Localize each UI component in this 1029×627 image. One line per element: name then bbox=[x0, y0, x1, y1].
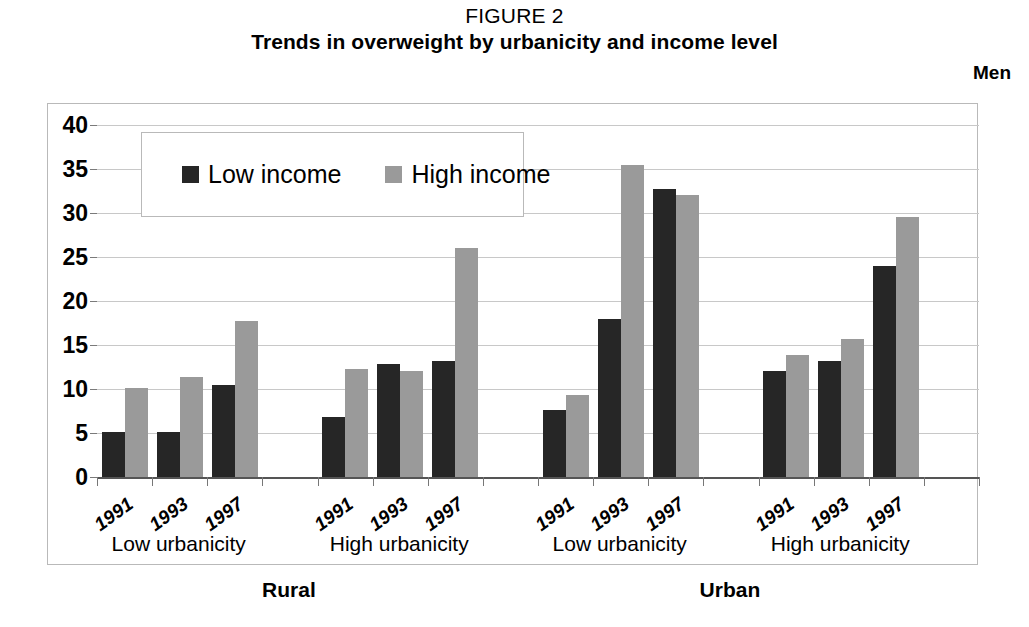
bar-low-income bbox=[543, 410, 566, 477]
section-label: Rural bbox=[262, 578, 316, 602]
y-tick-mark bbox=[90, 389, 97, 390]
x-tick-mark bbox=[428, 477, 429, 486]
y-tick-label: 30 bbox=[62, 200, 88, 227]
x-tick-mark bbox=[924, 477, 925, 486]
bar-high-income bbox=[621, 165, 644, 477]
y-tick-mark bbox=[90, 169, 97, 170]
y-tick-mark bbox=[90, 345, 97, 346]
bar-high-income bbox=[896, 217, 919, 477]
x-tick-mark bbox=[703, 477, 704, 486]
section-label: Urban bbox=[700, 578, 761, 602]
y-tick-mark bbox=[90, 257, 97, 258]
y-tick-mark bbox=[90, 301, 97, 302]
x-tick-mark bbox=[262, 477, 263, 486]
bar-low-income bbox=[653, 189, 676, 477]
legend-swatch-high-income-icon bbox=[385, 166, 402, 183]
bar-low-income bbox=[212, 385, 235, 477]
y-tick-label: 25 bbox=[62, 244, 88, 271]
group-label: Low urbanicity bbox=[553, 532, 687, 556]
bar-low-income bbox=[598, 319, 621, 477]
bar-high-income bbox=[125, 388, 148, 477]
x-tick-mark bbox=[97, 477, 98, 486]
bar-low-income bbox=[763, 371, 786, 477]
x-tick-mark bbox=[814, 477, 815, 486]
chart-frame: Percentage 0510152025303540 199119931997… bbox=[47, 103, 978, 565]
gridline bbox=[97, 257, 979, 258]
group-label: Low urbanicity bbox=[112, 532, 246, 556]
bar-low-income bbox=[873, 266, 896, 477]
y-tick-mark bbox=[90, 213, 97, 214]
x-tick-mark bbox=[869, 477, 870, 486]
x-tick-mark bbox=[152, 477, 153, 486]
y-tick-label: 10 bbox=[62, 376, 88, 403]
bar-low-income bbox=[818, 361, 841, 477]
x-tick-mark bbox=[207, 477, 208, 486]
x-tick-mark bbox=[483, 477, 484, 486]
bar-low-income bbox=[157, 432, 180, 477]
bar-low-income bbox=[432, 361, 455, 477]
x-tick-mark bbox=[648, 477, 649, 486]
bar-high-income bbox=[841, 339, 864, 477]
legend-item-high-income: High income bbox=[385, 160, 550, 189]
x-tick-mark bbox=[759, 477, 760, 486]
bar-low-income bbox=[102, 432, 125, 477]
y-tick-mark bbox=[90, 125, 97, 126]
bar-high-income bbox=[566, 395, 589, 477]
panel-label: Men bbox=[973, 62, 1011, 84]
x-tick-mark bbox=[373, 477, 374, 486]
legend-label-low-income: Low income bbox=[208, 160, 341, 189]
x-tick-mark bbox=[538, 477, 539, 486]
bar-high-income bbox=[455, 248, 478, 477]
figure-label: FIGURE 2 bbox=[0, 4, 1029, 28]
y-tick-label: 20 bbox=[62, 288, 88, 315]
y-tick-mark bbox=[90, 477, 97, 478]
gridline bbox=[97, 301, 979, 302]
legend-label-high-income: High income bbox=[411, 160, 550, 189]
legend-item-low-income: Low income bbox=[182, 160, 341, 189]
group-label: High urbanicity bbox=[330, 532, 469, 556]
y-tick-label: 5 bbox=[75, 420, 88, 447]
bar-high-income bbox=[786, 355, 809, 477]
gridline bbox=[97, 125, 979, 126]
y-tick-label: 0 bbox=[75, 464, 88, 491]
bar-high-income bbox=[345, 369, 368, 477]
bar-high-income bbox=[235, 321, 258, 477]
legend-swatch-low-income-icon bbox=[182, 166, 199, 183]
x-tick-mark bbox=[979, 477, 980, 486]
chart-title: Trends in overweight by urbanicity and i… bbox=[0, 30, 1029, 54]
bar-high-income bbox=[400, 371, 423, 477]
bar-high-income bbox=[180, 377, 203, 477]
y-tick-mark bbox=[90, 433, 97, 434]
y-tick-label: 40 bbox=[62, 112, 88, 139]
bar-low-income bbox=[322, 417, 345, 477]
x-tick-mark bbox=[318, 477, 319, 486]
y-tick-label: 15 bbox=[62, 332, 88, 359]
chart-legend: Low income High income bbox=[141, 132, 524, 217]
y-tick-label: 35 bbox=[62, 156, 88, 183]
group-label: High urbanicity bbox=[771, 532, 910, 556]
x-tick-mark bbox=[593, 477, 594, 486]
bar-high-income bbox=[676, 195, 699, 477]
bar-low-income bbox=[377, 364, 400, 477]
